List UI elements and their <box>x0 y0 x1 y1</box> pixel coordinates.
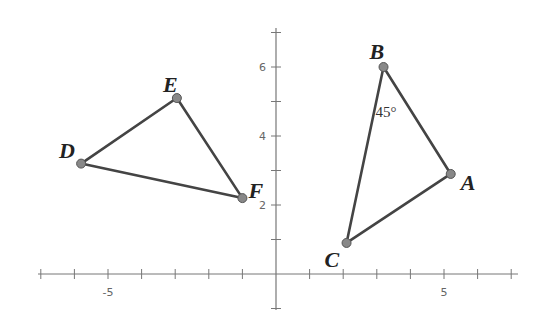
point-d-marker <box>77 159 86 168</box>
triangle-outline <box>347 67 451 243</box>
diagram-canvas: -55246 ABC45°DEF <box>0 0 544 333</box>
point-a-marker <box>446 169 455 178</box>
point-f-label: F <box>247 178 263 203</box>
point-b-label: B <box>369 39 385 64</box>
point-a-label: A <box>459 170 476 195</box>
y-tick-label: 4 <box>259 130 266 143</box>
triangles: ABC45°DEF <box>58 39 475 272</box>
triangle-outline <box>81 98 242 198</box>
y-tick-label: 6 <box>259 61 266 74</box>
triangle-def: DEF <box>58 72 263 203</box>
angle-b-label: 45° <box>376 104 397 120</box>
x-tick-label: 5 <box>441 286 448 299</box>
point-f-marker <box>238 194 247 203</box>
point-c-marker <box>342 238 351 247</box>
point-c-label: C <box>325 247 340 272</box>
point-e-label: E <box>162 72 178 97</box>
coordinate-plane-diagram: -55246 ABC45°DEF <box>0 0 544 333</box>
triangle-abc: ABC45° <box>325 39 476 272</box>
point-d-label: D <box>58 138 75 163</box>
x-tick-label: -5 <box>103 286 114 299</box>
